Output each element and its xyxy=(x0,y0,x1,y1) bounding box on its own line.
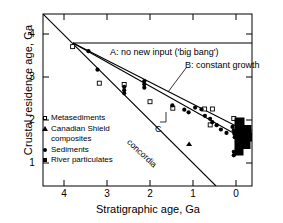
x-axis-ticks-top xyxy=(64,14,236,20)
x-axis-title: Stratigraphic age, Ga xyxy=(43,203,253,215)
legend-label-canadian-shield-line2: composites xyxy=(51,134,113,145)
legend-label-metasediments: Metasediments xyxy=(51,113,105,124)
x-tick-label-1: 1 xyxy=(183,188,203,199)
legend-label-canadian-shield: Canadian Shield xyxy=(51,124,110,135)
legend-label-river-particulates: River particulates xyxy=(51,155,113,166)
legend-item-river-particulates: River particulates xyxy=(38,155,113,166)
annotation-b: B: constant growth xyxy=(185,60,260,70)
leader-line-C xyxy=(160,112,166,122)
legend-label-sediments: Sediments xyxy=(51,145,89,156)
triangle-icon xyxy=(38,124,51,135)
x-tick-label-3: 3 xyxy=(97,188,117,199)
x-tick-label-0: 0 xyxy=(226,188,246,199)
leader-line-B xyxy=(168,68,186,92)
annotation-c: C xyxy=(155,124,162,134)
filled-circle-icon xyxy=(38,145,51,156)
annotation-a: A: no new input ('big bang') xyxy=(110,47,219,57)
x-tick-label-2: 2 xyxy=(140,188,160,199)
chart-figure: 4 3 2 1 4 3 2 1 0 Crustal residence age,… xyxy=(0,0,283,223)
x-tick-label-4: 4 xyxy=(54,188,74,199)
open-square-icon xyxy=(38,113,51,124)
legend-item-canadian-shield: Canadian Shield xyxy=(38,124,113,135)
y-axis-title: Crustal residence age, Ga xyxy=(22,15,34,165)
legend-item-metasediments: Metasediments xyxy=(38,113,113,124)
series-canadian-shield xyxy=(186,142,192,147)
filled-square-icon xyxy=(38,155,51,166)
chart-legend: Metasediments Canadian Shield composites… xyxy=(38,113,113,166)
legend-item-sediments: Sediments xyxy=(38,145,113,156)
